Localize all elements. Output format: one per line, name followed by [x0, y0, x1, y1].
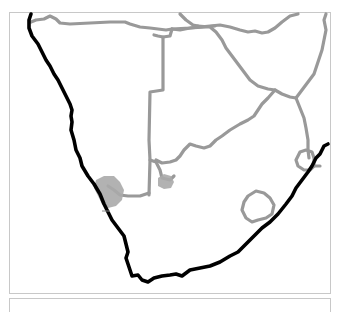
highlighted-areas: [94, 174, 174, 208]
country-borders: [31, 14, 326, 222]
coastline: [29, 14, 328, 282]
